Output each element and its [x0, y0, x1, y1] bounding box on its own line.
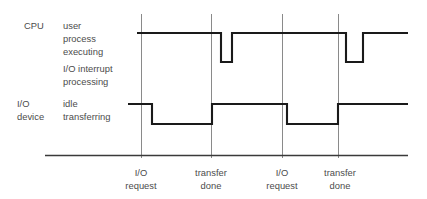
- event-label-2-line1: I/O: [276, 167, 289, 178]
- timing-diagram-svg: CPU user process executing I/O interrupt…: [0, 0, 427, 199]
- event-label-1-line1: transfer: [195, 167, 227, 178]
- cpu-state-label-processing: processing: [63, 76, 108, 87]
- io-device-state-label-idle: idle: [63, 98, 78, 109]
- cpu-state-label-process: process: [63, 33, 96, 44]
- io-device-actor-label-line1: I/O: [17, 98, 30, 109]
- cpu-state-label-user: user: [63, 20, 81, 31]
- cpu-state-label-executing: executing: [63, 46, 103, 57]
- io-device-actor-label-line2: device: [17, 111, 44, 122]
- event-label-2-line2: request: [266, 180, 298, 191]
- timing-diagram: CPU user process executing I/O interrupt…: [0, 0, 427, 199]
- event-label-1-line2: done: [201, 180, 222, 191]
- gridlines-group: [142, 14, 339, 158]
- cpu-actor-label: CPU: [24, 20, 44, 31]
- cpu-waveform: [137, 33, 408, 62]
- cpu-state-label-io-interrupt: I/O interrupt: [63, 63, 113, 74]
- io-device-state-label-transferring: transferring: [63, 111, 110, 122]
- io-device-waveform: [128, 104, 408, 124]
- event-label-0-line1: I/O: [135, 167, 148, 178]
- event-label-0-line2: request: [125, 180, 157, 191]
- event-label-3-line2: done: [330, 180, 351, 191]
- event-label-3-line1: transfer: [324, 167, 356, 178]
